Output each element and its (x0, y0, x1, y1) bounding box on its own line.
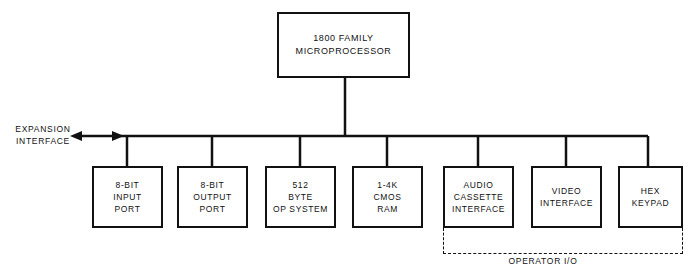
block-op-system: 512 BYTE OP SYSTEM (265, 166, 336, 228)
block-cpu: 1800 FAMILY MICROPROCESSOR (277, 12, 410, 78)
block-output-port: 8-BIT OUTPUT PORT (177, 166, 248, 228)
block-video-interface-label: VIDEO INTERFACE (540, 185, 593, 209)
bus-arrowhead (112, 131, 124, 141)
expansion-interface-label: EXPANSION INTERFACE (14, 124, 72, 147)
block-cmos-ram: 1-4K CMOS RAM (352, 166, 423, 228)
block-output-port-label: 8-BIT OUTPUT PORT (193, 179, 232, 215)
block-input-port-label: 8-BIT INPUT PORT (113, 179, 142, 215)
block-audio-cassette-interface-label: AUDIO CASSETTE INTERFACE (452, 179, 505, 215)
operator-io-label: OPERATOR I/O (478, 256, 608, 268)
block-hex-keypad-label: HEX KEYPAD (632, 185, 669, 209)
operator-io-group-bracket (443, 228, 683, 254)
block-audio-cassette-interface: AUDIO CASSETTE INTERFACE (443, 166, 514, 228)
block-video-interface: VIDEO INTERFACE (531, 166, 602, 228)
block-diagram: 1800 FAMILY MICROPROCESSOR EXPANSION INT… (0, 0, 700, 280)
block-cpu-label: 1800 FAMILY MICROPROCESSOR (296, 32, 392, 58)
block-cmos-ram-label: 1-4K CMOS RAM (374, 179, 402, 215)
block-op-system-label: 512 BYTE OP SYSTEM (273, 179, 328, 215)
block-hex-keypad: HEX KEYPAD (618, 166, 683, 228)
block-input-port: 8-BIT INPUT PORT (92, 166, 163, 228)
